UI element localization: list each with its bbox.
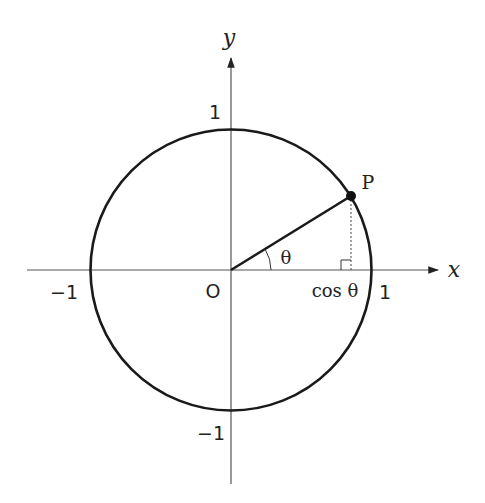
right-angle-mark [341, 260, 351, 270]
cos-theta-label: cos θ [312, 280, 359, 301]
x-axis-label: x [448, 257, 461, 282]
point-p-label: P [362, 171, 375, 193]
theta-label: θ [281, 247, 292, 268]
unit-circle-diagram: y x O 1 −1 −1 1 P θ cos θ [0, 0, 485, 503]
origin-label: O [206, 280, 221, 302]
tick-y-pos: 1 [209, 101, 221, 123]
point-p [346, 191, 356, 201]
y-axis-label: y [222, 25, 236, 50]
angle-arc [265, 249, 271, 270]
tick-y-neg: −1 [197, 422, 225, 444]
tick-x-pos: 1 [379, 281, 391, 303]
tick-x-neg: −1 [50, 281, 78, 303]
